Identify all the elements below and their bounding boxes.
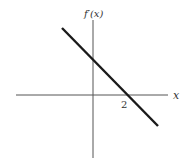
- derivative-graph: f′(x) x 2: [0, 0, 186, 164]
- f-prime-line: [62, 28, 158, 126]
- x-tick-2: 2: [121, 99, 127, 110]
- x-axis-label: x: [173, 89, 180, 102]
- y-axis-label: f′(x): [83, 8, 104, 19]
